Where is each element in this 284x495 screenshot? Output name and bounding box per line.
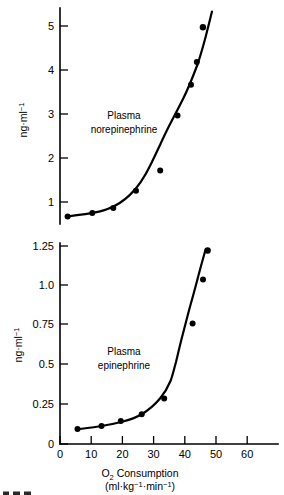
x-axis-units-line: (ml·kg−1·min−1) [105, 480, 175, 493]
upper-y-axis-title: ng·ml−1 [17, 103, 30, 138]
upper-panel-label-line2: norepinephrine [91, 124, 158, 135]
x-axis-title-group: O2 Consumption (ml·kg−1·min−1) [101, 467, 178, 492]
upper-panel-label-line1: Plasma [107, 110, 141, 121]
lower-datapoint-3 [118, 418, 124, 424]
upper-datapoint-8 [194, 59, 200, 65]
lower-ytick-label-0.25: 0.25 [33, 398, 54, 410]
x-axis-title-rest: Consumption [114, 467, 179, 479]
cropped-caption-fragment [3, 492, 31, 495]
x-axis-title-o: O [101, 467, 109, 479]
units-close: ) [172, 480, 176, 492]
lower-datapoint-1 [75, 426, 81, 432]
two-panel-chart-svg: 5 4 3 2 1 ng·ml−1 Plasma norepinephrine [0, 0, 284, 495]
lower-xtick-label-40: 40 [179, 448, 191, 460]
lower-ylabel-sup: −1 [12, 328, 21, 337]
lower-xtick-label-0: 0 [57, 448, 63, 460]
upper-datapoint-4 [133, 188, 139, 194]
units-min-exponent: −1 [163, 480, 172, 489]
lower-datapoint-8 [204, 247, 210, 253]
figure-container: 5 4 3 2 1 ng·ml−1 Plasma norepinephrine [0, 0, 284, 495]
lower-xtick-label-50: 50 [210, 448, 222, 460]
upper-ytick-label-4: 4 [48, 64, 54, 76]
lower-ytick-label-0.5: 0.5 [39, 358, 54, 370]
units-min: min [146, 480, 163, 492]
upper-datapoint-5 [157, 168, 163, 174]
lower-datapoint-5 [161, 396, 167, 402]
upper-ylabel-sup: −1 [17, 103, 26, 112]
lower-panel-label-line1: Plasma [107, 346, 141, 357]
upper-datapoint-9 [200, 24, 206, 30]
lower-datapoint-7 [200, 277, 206, 283]
lower-xtick-label-30: 30 [147, 448, 159, 460]
upper-ytick-label-3: 3 [48, 108, 54, 120]
lower-ytick-label-1.0: 1.0 [39, 279, 54, 291]
svg-text:ng·ml−1: ng·ml−1 [12, 328, 25, 363]
lower-panel: 1.25 1.0 0.75 0.5 0.25 0 ng·ml−1 0 10 [12, 240, 279, 460]
upper-datapoint-7 [188, 82, 194, 88]
lower-y-axis-title: ng·ml−1 [12, 328, 25, 363]
lower-ytick-label-0.75: 0.75 [33, 318, 54, 330]
svg-text:ng·ml−1: ng·ml−1 [17, 103, 30, 138]
units-open: (ml [105, 480, 120, 492]
upper-ytick-label-2: 2 [48, 152, 54, 164]
upper-datapoint-3 [110, 205, 116, 211]
upper-ylabel-main: ng [17, 126, 29, 138]
units-kg-exponent: −1 [134, 480, 143, 489]
lower-datapoint-4 [139, 411, 145, 417]
lower-datapoint-6 [190, 321, 196, 327]
units-kg: kg [123, 480, 134, 492]
upper-ytick-label-1: 1 [48, 196, 54, 208]
lower-panel-label-line2: epinephrine [98, 360, 151, 371]
upper-datapoint-1 [65, 214, 71, 220]
upper-datapoint-2 [89, 210, 95, 216]
lower-xtick-label-20: 20 [116, 448, 128, 460]
lower-curve [78, 250, 206, 429]
lower-ytick-label-0: 0 [48, 438, 54, 450]
lower-xtick-label-10: 10 [85, 448, 97, 460]
upper-ylabel-unit: ml [17, 111, 29, 122]
lower-datapoint-2 [99, 423, 105, 429]
upper-ytick-label-5: 5 [48, 20, 54, 32]
lower-xtick-label-60: 60 [241, 448, 253, 460]
upper-datapoint-6 [175, 113, 181, 119]
lower-ylabel-unit: ml [12, 336, 24, 347]
lower-ytick-label-1.25: 1.25 [33, 240, 54, 252]
upper-panel: 5 4 3 2 1 ng·ml−1 Plasma norepinephrine [17, 8, 213, 224]
lower-ylabel-main: ng [12, 351, 24, 363]
